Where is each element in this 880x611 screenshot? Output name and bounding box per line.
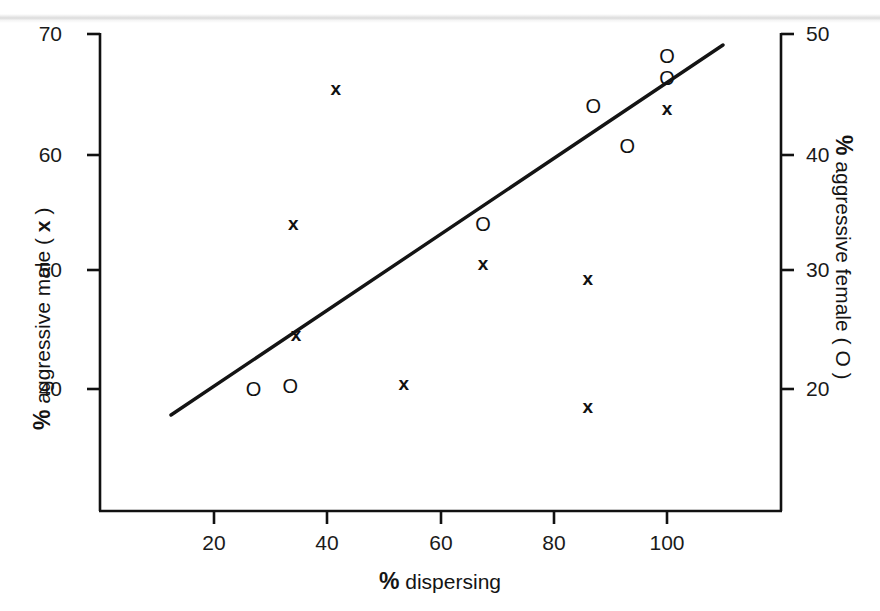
data-point-female-o: O <box>586 96 602 116</box>
regression-line <box>171 45 723 415</box>
y-left-tick-label-60: 60 <box>39 143 62 167</box>
x-axis-ticks <box>214 511 667 524</box>
x-marker-legend-glyph: x <box>31 220 54 232</box>
y-right-axis-title: % aggressive female ( O ) <box>830 135 857 380</box>
y-right-tick-label-50: 50 <box>806 22 829 46</box>
right-axis-ticks <box>781 155 794 389</box>
x-axis-title-text: dispersing <box>399 570 501 593</box>
y-left-tick-label-70: 70 <box>39 22 62 46</box>
x-tick-label-80: 80 <box>542 531 565 555</box>
data-point-male-x: x <box>662 99 673 118</box>
data-point-male-x: x <box>582 269 593 288</box>
data-point-female-o: O <box>659 46 675 66</box>
x-axis-title: % dispersing <box>379 568 501 595</box>
o-marker-legend-glyph: O <box>832 350 855 366</box>
data-point-female-o: O <box>620 136 636 156</box>
data-point-male-x: x <box>288 213 299 232</box>
y-right-axis-title-suffix: ) <box>832 367 855 380</box>
data-point-female-o: O <box>475 214 491 234</box>
y-right-tick-label-40: 40 <box>806 143 829 167</box>
data-point-male-x: x <box>582 396 593 415</box>
x-tick-label-60: 60 <box>429 531 452 555</box>
x-tick-label-20: 20 <box>202 531 225 555</box>
x-tick-label-100: 100 <box>649 531 684 555</box>
y-right-axis-title-text: aggressive female ( <box>832 155 855 350</box>
y-left-axis-title-text: aggressive male ( <box>31 232 54 409</box>
percent-symbol-left: % <box>29 410 55 430</box>
x-tick-label-40: 40 <box>315 531 338 555</box>
plot-vector-layer <box>0 0 880 611</box>
data-point-male-x: x <box>291 324 302 343</box>
data-point-male-x: x <box>330 79 341 98</box>
figure-canvas: 70 60 50 40 50 40 30 20 20 40 60 80 100 … <box>0 0 880 611</box>
data-point-female-o: O <box>283 376 299 396</box>
y-left-axis-title-suffix: ) <box>31 208 54 221</box>
y-left-axis-title: % aggressive male ( x ) <box>29 208 56 430</box>
data-point-male-x: x <box>398 374 409 393</box>
data-point-female-o: O <box>659 68 675 88</box>
percent-symbol-bottom: % <box>379 568 399 594</box>
y-right-tick-label-20: 20 <box>806 377 829 401</box>
scatter-plot: 70 60 50 40 50 40 30 20 20 40 60 80 100 … <box>0 0 880 611</box>
y-right-tick-label-30: 30 <box>806 258 829 282</box>
left-axis-ticks <box>87 155 100 389</box>
data-point-female-o: O <box>246 379 262 399</box>
data-point-male-x: x <box>478 253 489 272</box>
percent-symbol-right: % <box>831 135 857 155</box>
